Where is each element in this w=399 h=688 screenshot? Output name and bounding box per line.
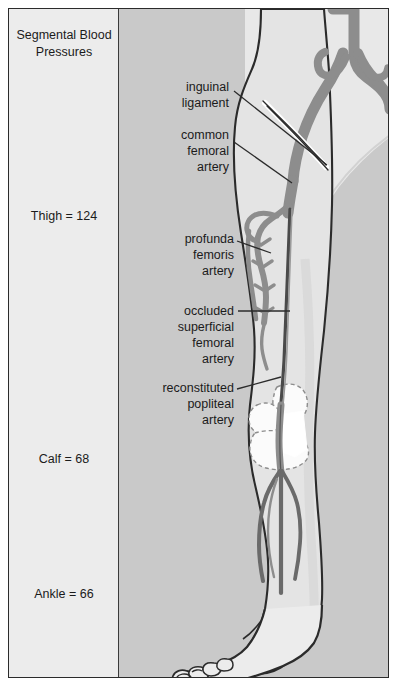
pressure-value-ankle: Ankle = 66 <box>9 587 119 601</box>
pressure-value-calf: Calf = 68 <box>9 452 119 466</box>
label-occluded-superficial-femoral-artery: occluded superficial femoral artery <box>29 303 234 367</box>
toe-fourth <box>217 659 233 671</box>
label-common-femoral-artery: common femoral artery <box>39 127 229 175</box>
label-reconstituted-popliteal-artery: reconstituted popliteal artery <box>19 380 234 428</box>
label-inguinal-ligament: inguinal ligament <box>39 79 229 111</box>
pressure-value-thigh: Thigh = 124 <box>9 209 119 223</box>
segmental-pressure-figure: Segmental Blood Pressures Thigh = 124 Ca… <box>8 8 389 678</box>
page-title: Segmental Blood Pressures <box>9 27 119 60</box>
label-profunda-femoris-artery: profunda femoris artery <box>39 231 234 279</box>
foot-shape <box>172 605 322 677</box>
